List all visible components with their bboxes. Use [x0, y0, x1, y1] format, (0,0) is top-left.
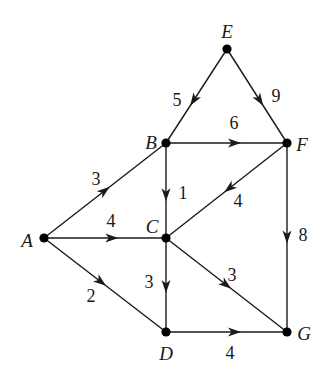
edge-weight-label: 6: [230, 113, 239, 133]
arrowhead-icon: [93, 274, 106, 286]
node-label-b: B: [145, 132, 157, 153]
arrowhead-icon: [252, 92, 263, 105]
edge-c-to-d: [162, 238, 171, 332]
node-g: [282, 327, 291, 336]
edge-weight-label: 4: [107, 211, 116, 231]
node-e: [222, 44, 231, 53]
node-label-e: E: [220, 21, 233, 42]
node-c: [161, 233, 170, 242]
edge-weight-label: 3: [92, 169, 101, 189]
node-label-c: C: [146, 216, 159, 237]
edge-weight-label: 8: [299, 225, 308, 245]
edge-c-to-g: [166, 238, 287, 332]
edge-weight-label: 5: [173, 90, 182, 110]
edge-weight-label: 2: [87, 286, 96, 306]
edge-b-to-c: [162, 143, 171, 238]
node-f: [282, 138, 291, 147]
edge-b-to-f: [166, 139, 287, 148]
node-d: [161, 327, 170, 336]
directed-graph-diagram: 596143423384ABCDEFG: [0, 0, 329, 375]
node-label-a: A: [19, 230, 33, 251]
edge-d-to-g: [166, 328, 287, 337]
edge-weight-label: 9: [272, 86, 281, 106]
edge-weight-label: 1: [179, 183, 188, 203]
edges-layer: [44, 49, 292, 337]
edge-weight-label: 4: [234, 191, 243, 211]
edge-weight-label: 4: [226, 343, 235, 363]
arrowhead-icon: [190, 92, 201, 105]
edge-weight-label: 3: [228, 265, 237, 285]
edge-f-to-g: [283, 143, 292, 332]
node-b: [161, 138, 170, 147]
node-label-d: D: [158, 343, 173, 364]
edge-weight-label: 3: [145, 272, 154, 292]
node-a: [39, 233, 48, 242]
node-label-g: G: [297, 323, 311, 344]
node-label-f: F: [295, 134, 308, 155]
